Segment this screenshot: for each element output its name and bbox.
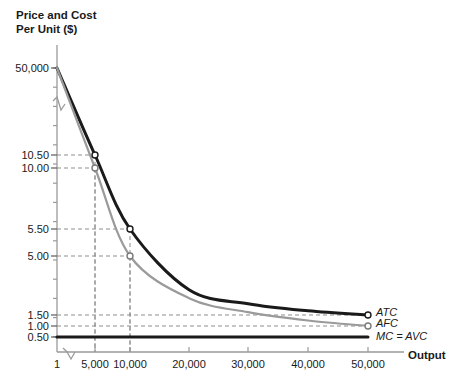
- x-tick-label: 50,000: [351, 358, 385, 370]
- series-label-afc: AFC: [376, 317, 398, 329]
- y-tick-label: 0.50: [28, 331, 49, 343]
- x-tick-label: 10,000: [113, 358, 147, 370]
- cost-curves-chart: Price and Cost Per Unit ($) Output 50,00…: [0, 0, 468, 389]
- x-tick-label: 20,000: [172, 358, 206, 370]
- y-tick-label: 10.50: [21, 149, 49, 161]
- y-tick-label: 10.00: [21, 162, 49, 174]
- y-tick-label: 50,000: [15, 62, 49, 74]
- x-tick-label: 40,000: [291, 358, 325, 370]
- x-tick-label: 1: [54, 358, 60, 370]
- y-tick-label: 5.00: [28, 250, 49, 262]
- tick-marks: [51, 68, 368, 352]
- y-tick-label: 5.50: [28, 223, 49, 235]
- series-label-mcavc: MC = AVC: [376, 330, 427, 342]
- curve-afc: [57, 68, 368, 326]
- x-tick-label: 30,000: [231, 358, 265, 370]
- curve-paths: [57, 68, 368, 337]
- x-tick-label: 5,000: [81, 358, 109, 370]
